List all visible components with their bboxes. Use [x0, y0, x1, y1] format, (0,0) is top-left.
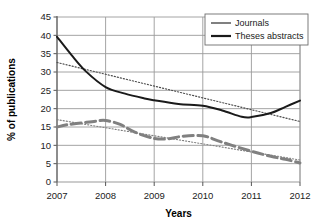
x-axis-tick-label: 2007 [46, 190, 67, 201]
x-axis-tick-label: 2010 [192, 190, 213, 201]
y-axis-tick-label: 35 [40, 48, 51, 59]
line-chart: 0510152025303540452007200820092010201120… [0, 0, 317, 223]
y-axis-tick-label: 20 [40, 103, 51, 114]
y-axis-tick-label: 0 [46, 176, 51, 187]
y-axis-tick-label: 30 [40, 66, 51, 77]
y-axis-tick-label: 40 [40, 30, 51, 41]
y-axis-tick-label: 15 [40, 121, 51, 132]
y-axis-tick-label: 45 [40, 11, 51, 22]
x-axis-tick-label: 2008 [95, 190, 116, 201]
x-axis-tick-label: 2012 [289, 190, 310, 201]
legend-label-theses-abstracts: Theses abstracts [235, 31, 304, 41]
y-axis-tick-label: 5 [46, 158, 51, 169]
x-axis-title: Years [165, 208, 192, 219]
x-axis-tick-label: 2009 [144, 190, 165, 201]
y-axis-tick-label: 10 [40, 140, 51, 151]
x-axis-tick-label: 2011 [241, 190, 261, 201]
chart-container: 0510152025303540452007200820092010201120… [0, 0, 317, 223]
y-axis-title: % of publications [6, 58, 17, 141]
series-line-theses-abstracts [57, 37, 300, 118]
trendline-theses-abstracts [57, 62, 300, 121]
legend-label-journals: Journals [235, 18, 270, 28]
y-axis-tick-label: 25 [40, 85, 51, 96]
